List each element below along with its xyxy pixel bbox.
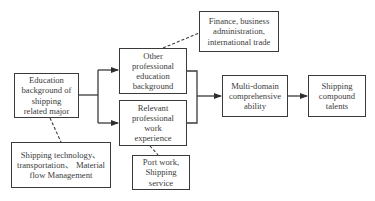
note-port-work: Port work, Shipping service	[132, 155, 190, 190]
node-relevant-work-experience: Relevant professional work experience	[119, 100, 187, 146]
node-line: work	[132, 123, 174, 133]
node-line: experience	[132, 133, 174, 143]
node-line: ability	[229, 101, 281, 111]
node-line: Port work,	[143, 157, 179, 167]
node-line: professional	[132, 61, 174, 71]
node-line: international trade	[208, 37, 271, 47]
node-line: Shipping	[319, 81, 355, 91]
node-line: background	[132, 81, 174, 91]
edge-relevant-to-merge	[187, 96, 197, 123]
node-other-professional-education: Other professional education background	[119, 48, 187, 94]
dashed-link-port-work	[150, 146, 158, 155]
dashed-link-finance	[163, 33, 199, 48]
node-line: Other	[132, 51, 174, 61]
node-multi-domain-ability: Multi-domain comprehensive ability	[222, 75, 288, 117]
node-line: service	[143, 178, 179, 188]
node-line: education	[132, 71, 174, 81]
node-line: compound	[319, 91, 355, 101]
edge-other-to-merge	[187, 71, 197, 96]
note-finance-business: Finance, business administration, intern…	[199, 11, 279, 52]
node-line: Relevant	[132, 103, 174, 113]
node-line: Finance, business	[208, 16, 271, 26]
node-line: Shipping	[143, 167, 179, 177]
flowchart-diagram: Education background of shipping related…	[0, 0, 375, 201]
node-education-background: Education background of shipping related…	[14, 73, 79, 118]
node-line: transportation、 Material	[17, 160, 105, 170]
node-line: comprehensive	[229, 91, 281, 101]
note-shipping-technology: Shipping technology、 transportation、 Mat…	[11, 142, 111, 188]
node-shipping-compound-talents: Shipping compound talents	[308, 75, 366, 117]
node-line: talents	[319, 101, 355, 111]
node-line: background of	[22, 85, 72, 95]
node-line: Education	[22, 75, 72, 85]
node-line: professional	[132, 113, 174, 123]
node-line: administration,	[208, 26, 271, 36]
node-line: shipping	[22, 96, 72, 106]
node-line: Multi-domain	[229, 81, 281, 91]
node-line: flow Management	[17, 170, 105, 180]
node-line: Shipping technology、	[17, 150, 105, 160]
node-line: related major	[22, 106, 72, 116]
dashed-link-shipping-tech	[50, 118, 61, 142]
